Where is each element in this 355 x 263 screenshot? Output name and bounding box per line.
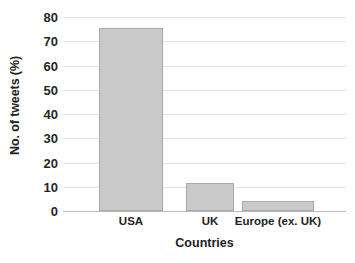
x-tick-label: Europe (ex. UK) <box>235 213 321 229</box>
y-tick-label: 0 <box>12 205 58 218</box>
y-tick-label: 40 <box>12 108 58 121</box>
x-axis-tick-labels: USAUKEurope (ex. UK) <box>63 213 346 231</box>
x-tick-label: USA <box>119 213 143 229</box>
y-tick-label: 10 <box>12 180 58 193</box>
bar-chart-figure: No. of tweets (%) 01020304050607080 USAU… <box>0 0 355 263</box>
y-tick-label: 30 <box>12 132 58 145</box>
y-tick-label: 70 <box>12 35 58 48</box>
x-axis-title: Countries <box>63 236 346 250</box>
y-axis-tick-labels: 01020304050607080 <box>10 17 58 211</box>
y-tick-label: 50 <box>12 83 58 96</box>
y-tick-label: 80 <box>12 11 58 24</box>
y-tick-label: 20 <box>12 156 58 169</box>
plot-area <box>63 17 346 211</box>
axis-baseline <box>63 211 346 212</box>
bar[interactable] <box>99 28 163 211</box>
bar[interactable] <box>242 201 314 211</box>
bars-group <box>63 17 346 211</box>
bar[interactable] <box>186 183 234 211</box>
x-tick-label: UK <box>202 213 219 229</box>
y-tick-label: 60 <box>12 59 58 72</box>
